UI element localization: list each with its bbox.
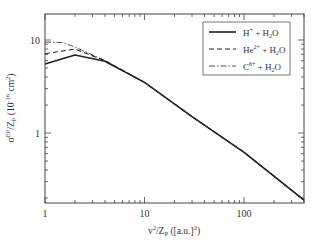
- series-line-solid: [45, 55, 304, 200]
- x-tick-label: 1: [43, 208, 48, 219]
- y-tick-label: 1: [35, 128, 40, 139]
- y-axis-title: σEP/ZP (10-16 cm2): [4, 74, 17, 143]
- y-tick-label: 10: [30, 35, 40, 46]
- x-tick-label: 10: [140, 208, 150, 219]
- legend-label: He2+ + H2O: [243, 44, 286, 56]
- legend-label: H+ + H2O: [243, 27, 279, 39]
- legend: H+ + H2OHe2+ + H2OC6+ + H2O: [203, 22, 290, 75]
- legend-label: C6+ + H2O: [243, 61, 281, 73]
- x-axis-title: v2/ZP ([a.u.]2): [148, 224, 200, 237]
- x-tick-label: 100: [237, 208, 252, 219]
- chart: 110100110 H+ + H2OHe2+ + H2OC6+ + H2O v2…: [0, 0, 313, 247]
